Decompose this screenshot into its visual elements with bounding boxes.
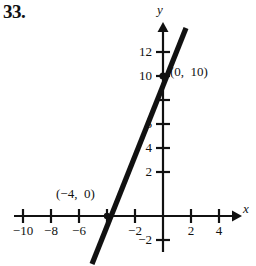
y-tick-label-2: 2 bbox=[126, 164, 152, 180]
annotation-x-intercept: (−4, 0) bbox=[56, 186, 95, 202]
x-tick-label-4: 4 bbox=[212, 223, 226, 239]
x-axis bbox=[14, 211, 242, 222]
x-axis-label: x bbox=[243, 201, 249, 217]
problem-number: 33. bbox=[3, 1, 25, 23]
annotation-y-intercept: (0, 10) bbox=[170, 64, 208, 80]
y-tick-label-12: 12 bbox=[126, 44, 152, 60]
x-tick-label--8: −8 bbox=[39, 223, 63, 239]
x-axis-arrowhead bbox=[232, 211, 242, 222]
y-axis-arrowhead bbox=[158, 22, 169, 32]
y-axis-label: y bbox=[157, 2, 163, 18]
x-tick-label-2: 2 bbox=[184, 223, 198, 239]
y-tick-label-6: 6 bbox=[126, 116, 152, 132]
y-tick-label--2: −2 bbox=[120, 232, 152, 248]
y-tick-label-10: 10 bbox=[126, 68, 152, 84]
point-marker-x-intercept bbox=[104, 213, 110, 219]
y-axis bbox=[158, 22, 169, 252]
x-tick-label--6: −6 bbox=[67, 223, 91, 239]
x-tick-label--10: −10 bbox=[8, 223, 38, 239]
y-tick-label-4: 4 bbox=[126, 140, 152, 156]
graph-figure: 33. bbox=[0, 0, 256, 266]
point-marker-y-intercept bbox=[159, 72, 166, 79]
